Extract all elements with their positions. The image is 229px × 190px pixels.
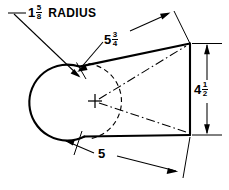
- height-arrowhead-bottom: [204, 124, 210, 134]
- height-fraction: 12: [202, 81, 208, 99]
- centerline-to-bottom-corner: [99, 103, 186, 132]
- radius-whole-number: 1: [28, 5, 35, 20]
- width-extension-line-left: [74, 131, 82, 155]
- radius-denominator: 8: [36, 13, 42, 21]
- radius-suffix-text: RADIUS: [48, 6, 96, 20]
- arc-left-round-end: [29, 65, 84, 141]
- height-dimension-label: 412: [194, 81, 208, 99]
- slant-denominator: 4: [112, 40, 118, 48]
- radius-leader: [8, 13, 81, 78]
- width-extension-line-right: [183, 137, 190, 178]
- slant-fraction: 34: [112, 31, 118, 49]
- width-arrowhead-right: [167, 168, 179, 174]
- height-arrowhead-top: [204, 44, 210, 54]
- height-whole-number: 4: [194, 82, 201, 97]
- center-mark: [88, 94, 102, 108]
- slant-extension-line-right: [174, 11, 190, 44]
- height-denominator: 2: [202, 90, 208, 98]
- width-dimension-label: 5: [98, 145, 105, 161]
- width-arrowhead-left: [64, 140, 75, 146]
- slant-whole-number: 5: [104, 32, 111, 47]
- radius-leader-stem: [14, 14, 79, 76]
- width-dimension-line-right: [117, 156, 176, 171]
- radius-dimension-label: 158RADIUS: [28, 4, 96, 22]
- upper-tangent-edge: [80, 44, 191, 67]
- slant-dimension-line-lower: [79, 42, 103, 70]
- slant-arrowhead-upper: [160, 13, 171, 20]
- radius-fraction: 58: [36, 4, 42, 22]
- slant-dimension-label: 534: [104, 31, 118, 49]
- technical-drawing: 158RADIUS 534 412 5: [0, 0, 229, 190]
- width-whole-number: 5: [98, 146, 105, 161]
